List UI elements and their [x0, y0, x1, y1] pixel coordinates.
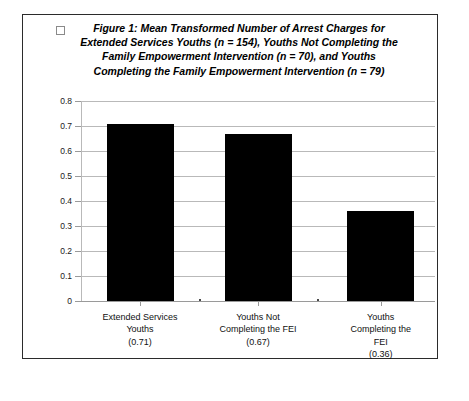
category-label-line: Completing the: [322, 323, 440, 335]
x-axis-tick-mark: [381, 301, 382, 306]
category-label-line: Youths: [81, 323, 199, 335]
figure-frame: Figure 1: Mean Transformed Number of Arr…: [22, 14, 438, 359]
category-label-line: (0.71): [81, 336, 199, 348]
category-label: Extended ServicesYouths(0.71): [81, 311, 199, 348]
x-axis-boundary-dot: [199, 299, 201, 301]
x-axis-tick-mark: [140, 301, 141, 306]
bar: [225, 134, 292, 302]
category-label-line: Youths: [322, 311, 440, 323]
chart-plot-wrapper: 0.80.70.60.50.40.30.20.10 Extended Servi…: [23, 91, 437, 357]
y-axis-tick-label: 0: [67, 296, 72, 306]
figure-title: Figure 1: Mean Transformed Number of Arr…: [72, 21, 406, 78]
y-axis-tick-label: 0.2: [60, 246, 72, 256]
category-label: YouthsCompleting theFEI(0.36): [322, 311, 440, 361]
chart-plot-area: 0.80.70.60.50.40.30.20.10: [81, 101, 435, 301]
category-labels-group: Extended ServicesYouths(0.71)Youths NotC…: [81, 311, 435, 371]
y-axis-tick-mark: [75, 276, 81, 277]
y-axis-tick-mark: [75, 126, 81, 127]
y-axis-tick-mark: [75, 226, 81, 227]
category-label-line: Youths Not: [199, 311, 317, 323]
bar: [107, 124, 174, 302]
y-axis-tick-mark: [75, 151, 81, 152]
category-label: Youths NotCompleting the FEI(0.67): [199, 311, 317, 348]
y-axis-tick-label: 0.6: [60, 146, 72, 156]
category-label-line: Extended Services: [81, 311, 199, 323]
y-axis-tick-label: 0.8: [60, 96, 72, 106]
y-axis-tick-label: 0.7: [60, 121, 72, 131]
figure-title-block: Figure 1: Mean Transformed Number of Arr…: [31, 21, 431, 78]
y-axis-tick-mark: [75, 101, 81, 102]
category-label-line: (0.36): [322, 348, 440, 360]
y-axis-tick-label: 0.3: [60, 221, 72, 231]
bar: [347, 211, 414, 301]
y-axis-tick-mark: [75, 301, 81, 302]
y-axis-tick-label: 0.1: [60, 271, 72, 281]
y-axis-tick-label: 0.4: [60, 196, 72, 206]
y-axis-tick-mark: [75, 251, 81, 252]
y-axis-tick-mark: [75, 176, 81, 177]
y-axis-tick-mark: [75, 201, 81, 202]
gridline: [81, 101, 435, 102]
empty-square-marker-icon: [56, 26, 65, 35]
category-label-line: (0.67): [199, 336, 317, 348]
x-axis-boundary-dot: [317, 299, 319, 301]
x-axis-tick-mark: [258, 301, 259, 306]
category-label-line: Completing the FEI: [199, 323, 317, 335]
category-label-line: FEI: [322, 336, 440, 348]
y-axis-tick-label: 0.5: [60, 171, 72, 181]
